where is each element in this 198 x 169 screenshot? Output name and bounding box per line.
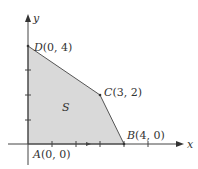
region-s-label: S (62, 101, 70, 114)
y-axis-arrow-icon (25, 14, 31, 22)
polygon-region-diagram: y x D(0, 4) C(3, 2) B(4, 0) A(0, 0) S (0, 0, 198, 169)
vertex-b-label: B(4, 0) (126, 129, 165, 142)
x-axis-label: x (187, 138, 194, 151)
vertex-a-label: A(0, 0) (32, 148, 71, 161)
vertex-d-label: D(0, 4) (33, 41, 72, 54)
vertex-c-dot (99, 94, 102, 97)
vertex-c-label: C(3, 2) (104, 86, 142, 99)
vertex-d-dot (27, 45, 30, 48)
x-axis-arrow-icon (176, 141, 184, 147)
y-axis-label: y (32, 12, 40, 25)
vertex-b-dot (123, 143, 126, 146)
